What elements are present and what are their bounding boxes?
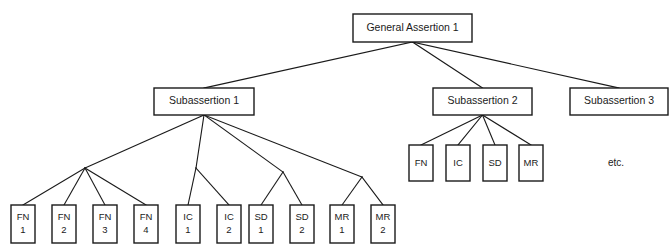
- edge-group-fn-to-fn-4: [85, 168, 146, 205]
- node-ic-2-label: IC: [224, 211, 234, 222]
- node-subassertion-3-label: Subassertion 3: [584, 94, 654, 106]
- node-ic-1[interactable]: IC1: [176, 205, 200, 243]
- node-fn-4[interactable]: FN4: [134, 205, 158, 243]
- nodes-layer: General Assertion 1Subassertion 1Subasse…: [11, 14, 668, 243]
- etc-note: etc.: [608, 157, 624, 168]
- node-mr-1-label: MR: [335, 211, 350, 222]
- node-s2-mr[interactable]: MR: [519, 145, 543, 181]
- edge-root-to-subassertion-2: [413, 42, 483, 88]
- edge-group-sd-to-sd-2: [283, 172, 302, 205]
- edge-root-to-subassertion-1: [204, 42, 413, 88]
- node-ic-2-label: 2: [226, 224, 231, 235]
- node-subassertion-1-label: Subassertion 1: [169, 94, 239, 106]
- assertion-tree-diagram: General Assertion 1Subassertion 1Subasse…: [0, 0, 672, 251]
- edge-subassertion-1-to-group-mr: [204, 115, 362, 177]
- node-ic-1-label: 1: [185, 224, 190, 235]
- node-s2-sd[interactable]: SD: [483, 145, 507, 181]
- node-sd-2-label: 2: [299, 224, 304, 235]
- node-fn-2-label: FN: [58, 211, 71, 222]
- node-fn-3[interactable]: FN3: [93, 205, 117, 243]
- node-sd-2[interactable]: SD2: [290, 205, 314, 243]
- node-mr-2-label: MR: [376, 211, 391, 222]
- annotations-layer: etc.: [608, 157, 624, 168]
- edge-group-sd-to-sd-1: [261, 172, 283, 205]
- node-general-assertion-1-label: General Assertion 1: [366, 21, 458, 33]
- node-s2-ic[interactable]: IC: [446, 145, 470, 181]
- edge-group-ic-to-ic-1: [188, 168, 196, 205]
- edge-subassertion-2-to-s2-fn: [421, 115, 483, 145]
- node-s2-mr-label: MR: [524, 157, 539, 168]
- edge-root-to-subassertion-3: [413, 42, 620, 88]
- node-subassertion-2-label: Subassertion 2: [447, 94, 517, 106]
- edge-subassertion-1-to-group-sd: [204, 115, 283, 172]
- edge-subassertion-2-to-s2-mr: [483, 115, 532, 145]
- edge-subassertion-1-to-group-fn: [85, 115, 204, 168]
- node-fn-4-label: FN: [140, 211, 153, 222]
- node-general-assertion-1[interactable]: General Assertion 1: [353, 14, 472, 42]
- node-sd-2-label: SD: [295, 211, 308, 222]
- edge-subassertion-1-to-group-ic: [196, 115, 204, 168]
- node-subassertion-3[interactable]: Subassertion 3: [570, 88, 668, 115]
- edge-group-fn-to-fn-1: [23, 168, 85, 205]
- node-fn-1[interactable]: FN1: [11, 205, 35, 243]
- edge-group-fn-to-fn-2: [64, 168, 85, 205]
- node-sd-1-label: 1: [258, 224, 263, 235]
- node-fn-4-label: 4: [143, 224, 148, 235]
- node-mr-1-label: 1: [339, 224, 344, 235]
- tree-diagram-canvas: General Assertion 1Subassertion 1Subasse…: [0, 0, 672, 251]
- node-fn-2-label: 2: [61, 224, 66, 235]
- node-fn-3-label: 3: [102, 224, 107, 235]
- node-fn-2[interactable]: FN2: [52, 205, 76, 243]
- edge-group-ic-to-ic-2: [196, 168, 229, 205]
- edge-subassertion-2-to-s2-ic: [458, 115, 483, 145]
- edge-group-mr-to-mr-2: [362, 177, 383, 205]
- node-mr-1[interactable]: MR1: [330, 205, 354, 243]
- node-fn-3-label: FN: [99, 211, 112, 222]
- node-sd-1-label: SD: [254, 211, 267, 222]
- node-s2-fn[interactable]: FN: [409, 145, 433, 181]
- node-sd-1[interactable]: SD1: [249, 205, 273, 243]
- node-ic-1-label: IC: [183, 211, 193, 222]
- node-fn-1-label: 1: [20, 224, 25, 235]
- node-ic-2[interactable]: IC2: [217, 205, 241, 243]
- node-subassertion-2[interactable]: Subassertion 2: [433, 88, 532, 115]
- node-s2-fn-label: FN: [415, 157, 428, 168]
- edge-group-mr-to-mr-1: [342, 177, 362, 205]
- node-subassertion-1[interactable]: Subassertion 1: [154, 88, 254, 115]
- node-fn-1-label: FN: [17, 211, 30, 222]
- node-s2-ic-label: IC: [453, 157, 463, 168]
- node-mr-2[interactable]: MR2: [371, 205, 395, 243]
- node-mr-2-label: 2: [380, 224, 385, 235]
- node-s2-sd-label: SD: [488, 157, 501, 168]
